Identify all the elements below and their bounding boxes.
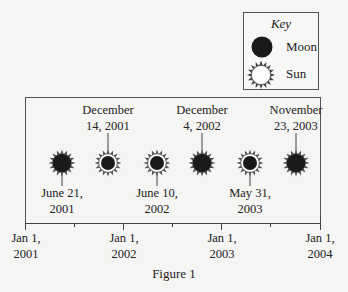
event-label-4: December 4, 2002 [176, 102, 227, 134]
eclipse-symbol-6 [283, 150, 310, 177]
eclipse-symbol-5 [237, 150, 264, 177]
event-label-line: 4, 2002 [176, 118, 227, 134]
axis-major-tick [221, 223, 222, 230]
axis-minor-tick [172, 223, 173, 227]
event-label-line: December [82, 102, 133, 118]
event-label-line: 14, 2001 [82, 118, 133, 134]
time-axis [25, 223, 321, 224]
event-label-3: June 10, 2002 [136, 185, 178, 217]
event-label-6: November 23, 2003 [270, 102, 323, 134]
axis-label-line: Jan 1, [207, 230, 236, 246]
axis-minor-tick [74, 223, 75, 227]
axis-major-tick [320, 217, 321, 230]
axis-label-2002: Jan 1, 2002 [109, 230, 138, 262]
axis-label-2001: Jan 1, 2001 [11, 230, 40, 262]
axis-label-line: Jan 1, [11, 230, 40, 246]
eclipse-symbol-4 [189, 150, 216, 177]
event-label-line: June 10, [136, 185, 178, 201]
event-label-line: 2003 [229, 201, 271, 217]
event-label-line: June 21, [41, 185, 83, 201]
axis-label-line: Jan 1, [305, 230, 334, 246]
event-label-1: June 21, 2001 [41, 185, 83, 217]
axis-minor-tick [270, 223, 271, 227]
axis-major-tick [123, 223, 124, 230]
axis-major-tick [25, 223, 26, 230]
event-label-line: 2001 [41, 201, 83, 217]
axis-label-line: 2003 [207, 246, 236, 262]
eclipse-timeline [0, 0, 348, 292]
event-label-line: 23, 2003 [270, 118, 323, 134]
event-label-line: November [270, 102, 323, 118]
event-label-line: May 31, [229, 185, 271, 201]
event-label-2: December 14, 2001 [82, 102, 133, 134]
axis-label-line: Jan 1, [109, 230, 138, 246]
eclipse-symbol-2 [95, 150, 122, 177]
axis-label-2004: Jan 1, 2004 [305, 230, 334, 262]
event-label-line: 2002 [136, 201, 178, 217]
axis-label-line: 2002 [109, 246, 138, 262]
axis-label-line: 2001 [11, 246, 40, 262]
event-label-5: May 31, 2003 [229, 185, 271, 217]
axis-label-line: 2004 [305, 246, 334, 262]
event-label-line: December [176, 102, 227, 118]
eclipse-symbol-3 [144, 150, 171, 177]
axis-label-2003: Jan 1, 2003 [207, 230, 236, 262]
figure-caption: Figure 1 [0, 266, 348, 282]
eclipse-symbol-1 [49, 150, 76, 177]
